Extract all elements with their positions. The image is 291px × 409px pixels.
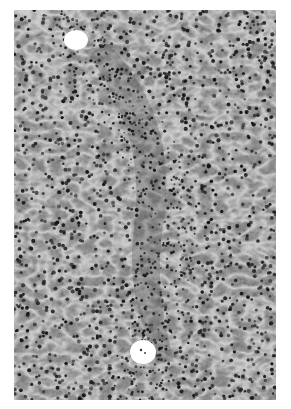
histology-micrograph xyxy=(14,10,276,400)
figure xyxy=(0,0,291,409)
central-vein-upper xyxy=(64,30,88,50)
tissue-image xyxy=(14,10,276,400)
central-vein-lower xyxy=(130,340,156,364)
